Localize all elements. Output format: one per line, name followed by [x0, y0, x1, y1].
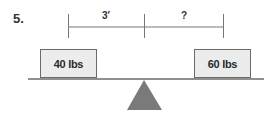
problem-number: 5. — [13, 11, 24, 26]
left-weight-label: 40 lbs — [54, 58, 83, 70]
right-weight-label: 60 lbs — [208, 58, 237, 70]
left-distance-label: 3′ — [91, 10, 121, 21]
right-weight-box: 60 lbs — [194, 49, 251, 78]
fulcrum-triangle — [127, 80, 162, 110]
left-weight-box: 40 lbs — [40, 49, 97, 78]
right-distance-label: ? — [169, 10, 199, 21]
